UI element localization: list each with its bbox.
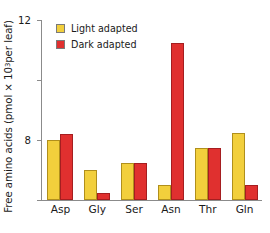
- bar: [84, 170, 97, 200]
- x-axis-label: Ser: [125, 203, 143, 215]
- bar: [171, 43, 184, 201]
- y-tick-mark: 4: [37, 140, 41, 141]
- bar: [245, 185, 258, 200]
- x-axis-label: Asp: [51, 203, 71, 215]
- y-tick-mark: 12: [37, 20, 41, 21]
- legend-swatch: [56, 24, 65, 33]
- bar: [47, 140, 60, 200]
- legend-label: Light adapted: [71, 23, 138, 34]
- x-axis-label: Asn: [161, 203, 180, 215]
- y-axis-title: Free amino acids (pmol × 103 per leaf): [0, 0, 16, 233]
- bar: [195, 148, 208, 201]
- y-tick-label: 12: [18, 15, 31, 26]
- bar: [158, 185, 171, 200]
- legend-item: Light adapted: [56, 22, 138, 35]
- y-axis-title-suffix: per leaf): [2, 20, 14, 63]
- bar: [97, 193, 110, 201]
- y-tick-mark: 0: [37, 200, 41, 201]
- x-axis-label: Gly: [89, 203, 106, 215]
- bar: [121, 163, 134, 201]
- legend-swatch: [56, 40, 65, 49]
- y-tick-mark: 8: [37, 80, 41, 81]
- x-axis-labels: AspGlySerAsnThrGln: [41, 203, 262, 223]
- bar: [208, 148, 221, 201]
- bar-chart: Free amino acids (pmol × 103 per leaf) 0…: [0, 0, 270, 233]
- legend-item: Dark adapted: [56, 38, 138, 51]
- bar-group: [232, 20, 258, 200]
- chart-legend: Light adaptedDark adapted: [56, 22, 138, 54]
- bar-group: [195, 20, 221, 200]
- legend-label: Dark adapted: [71, 39, 137, 50]
- x-axis-label: Thr: [199, 203, 217, 215]
- x-axis-line: [41, 200, 262, 201]
- y-tick-label: 8: [25, 135, 31, 146]
- bar: [60, 134, 73, 200]
- y-axis-title-prefix: Free amino acids (pmol × 10: [2, 67, 14, 213]
- x-axis-label: Gln: [236, 203, 254, 215]
- bar: [232, 133, 245, 201]
- bar-group: [158, 20, 184, 200]
- bar: [134, 163, 147, 201]
